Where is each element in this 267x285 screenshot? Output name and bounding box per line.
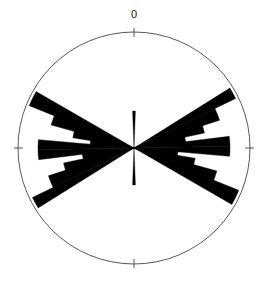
axis-tick-label: 0 [131,8,137,20]
petal-layer [29,88,239,208]
rose-petal [29,92,134,149]
rose-petal [133,111,136,148]
rose-diagram-figure: 0 [0,0,267,285]
rose-petal [133,148,136,185]
rose-petal [134,148,239,205]
axis-label-layer: 0 [131,8,137,20]
rose-diagram-canvas: 0 [0,0,267,285]
